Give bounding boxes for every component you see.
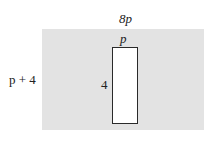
- inner-width-label: p: [120, 32, 127, 46]
- inner-height-label: 4: [101, 78, 108, 92]
- outer-width-label: 8p: [119, 12, 132, 26]
- outer-height-label: p + 4: [9, 73, 36, 87]
- inner-rectangle: [112, 47, 138, 124]
